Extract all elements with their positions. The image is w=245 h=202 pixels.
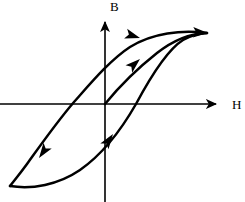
axis-label-b: B	[110, 0, 119, 14]
curve-ascending-branch	[10, 33, 207, 187]
axis-label-h: H	[232, 97, 241, 112]
hysteresis-loop-plot: B H	[0, 0, 245, 202]
arrow-descending-lower-icon	[35, 143, 52, 161]
curve-descending-branch	[10, 32, 207, 186]
axis-group	[0, 22, 216, 202]
curve-initial-magnetization	[105, 33, 206, 104]
hysteresis-curves	[10, 32, 207, 187]
hysteresis-figure: B H	[0, 0, 245, 202]
arrow-ascending-lower-icon	[100, 131, 117, 149]
arrow-virgin-icon	[126, 55, 144, 72]
direction-arrowheads	[35, 27, 208, 161]
